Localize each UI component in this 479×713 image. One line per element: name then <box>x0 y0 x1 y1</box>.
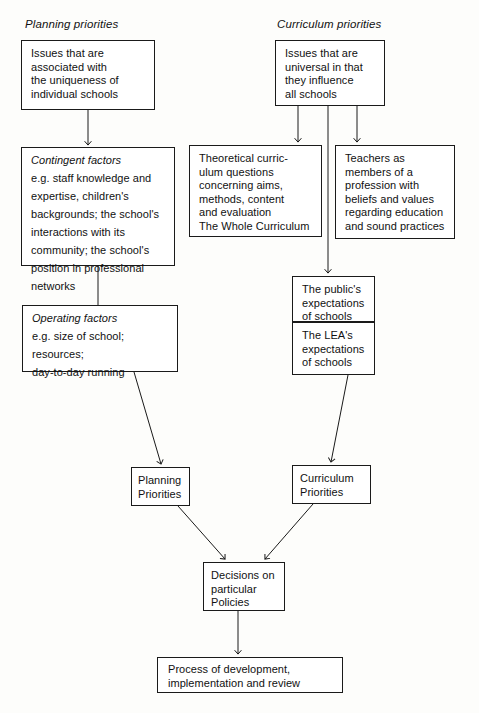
box-unique-issues: Issues that are associated with the uniq… <box>21 40 155 110</box>
flowchart-canvas: Planning priorities Curriculum prioritie… <box>0 0 479 713</box>
box-public-expectations: The public's expectations of schools <box>292 276 375 322</box>
box-teachers-profession-text: Teachers as members of a profession with… <box>336 146 454 234</box>
curriculum-priorities-header: Curriculum priorities <box>277 18 381 30</box>
box-lea-expectations: The LEA's expectations of schools <box>292 322 375 375</box>
arrow-planning-to-decisions <box>178 506 225 559</box>
box-contingent-factors-title: Contingent factors <box>31 154 174 168</box>
box-theoretical-curriculum: Theoretical curric- ulum questions conce… <box>189 145 322 237</box>
box-contingent-factors-text: e.g. staff knowledge and expertise, chil… <box>31 172 159 292</box>
box-curriculum-priorities-text: Curriculum Priorities <box>293 466 370 499</box>
box-planning-priorities-text: Planning Priorities <box>132 468 189 501</box>
box-operating-factors: Operating factors e.g. size of school; r… <box>22 305 178 372</box>
planning-priorities-header: Planning priorities <box>25 18 118 30</box>
box-unique-issues-text: Issues that are associated with the uniq… <box>22 41 154 101</box>
box-operating-factors-title: Operating factors <box>32 312 177 326</box>
box-lea-expectations-text: The LEA's expectations of schools <box>293 323 374 370</box>
box-contingent-factors: Contingent factors e.g. staff knowledge … <box>21 147 175 266</box>
box-process: Process of development, implementation a… <box>157 657 343 693</box>
box-universal-issues-text: Issues that are universal in that they i… <box>276 41 384 101</box>
box-operating-factors-text: e.g. size of school; resources; day-to-d… <box>32 330 125 378</box>
box-planning-priorities: Planning Priorities <box>131 467 190 506</box>
box-decisions-text: Decisions on particular Policies <box>204 563 284 610</box>
box-theoretical-curriculum-text: Theoretical curric- ulum questions conce… <box>190 146 321 234</box>
box-decisions: Decisions on particular Policies <box>203 562 285 611</box>
box-public-expectations-text: The public's expectations of schools <box>293 277 374 324</box>
box-universal-issues: Issues that are universal in that they i… <box>275 40 385 106</box>
arrow-curriculum-to-decisions <box>265 504 313 559</box>
arrow-lea-to-curriculum <box>331 375 348 462</box>
box-curriculum-priorities: Curriculum Priorities <box>292 465 371 504</box>
arrow-operating-to-planning <box>134 372 161 464</box>
box-process-text: Process of development, implementation a… <box>158 658 342 690</box>
box-teachers-profession: Teachers as members of a profession with… <box>335 145 455 239</box>
